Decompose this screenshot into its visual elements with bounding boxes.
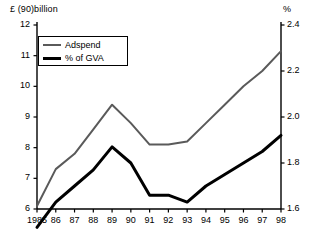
chart-container: £ (90)billion % Adspend % of GVA 6789101… xyxy=(0,0,313,237)
right-axis-tick-label: 1.8 xyxy=(287,157,313,167)
left-axis-tick-label: 12 xyxy=(8,19,30,29)
legend-item-pct-of-gva: % of GVA xyxy=(43,52,104,64)
left-axis-tick-label: 9 xyxy=(8,111,30,121)
right-axis-tick-label: 2.0 xyxy=(287,111,313,121)
x-axis-tick-label: 98 xyxy=(268,215,294,225)
left-axis-tick-label: 6 xyxy=(8,203,30,213)
right-axis-tick-label: 2.4 xyxy=(287,19,313,29)
left-axis-tick-label: 11 xyxy=(8,50,30,60)
right-axis-tick-label: 2.2 xyxy=(287,65,313,75)
line-swatch-black-icon xyxy=(43,57,61,60)
series-line-of-gva xyxy=(37,135,281,227)
left-axis-tick-label: 7 xyxy=(8,172,30,182)
legend: Adspend % of GVA xyxy=(38,36,128,66)
left-axis-tick-label: 8 xyxy=(8,142,30,152)
legend-item-adspend: Adspend xyxy=(43,39,101,51)
right-axis-tick-label: 1.6 xyxy=(287,203,313,213)
series-line-adspend xyxy=(37,51,281,206)
legend-label-adspend: Adspend xyxy=(65,41,101,50)
legend-label-pct-of-gva: % of GVA xyxy=(65,54,104,63)
line-swatch-gray-icon xyxy=(43,44,61,46)
left-axis-tick-label: 10 xyxy=(8,80,30,90)
